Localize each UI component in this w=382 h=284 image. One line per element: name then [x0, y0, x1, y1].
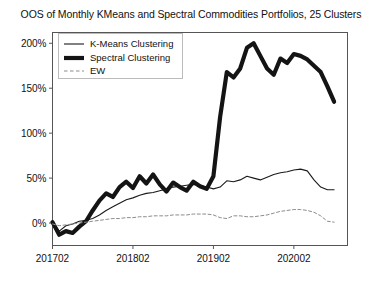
x-axis-labels: 201702201802201902202002	[36, 253, 311, 264]
y-tick-label: 0%	[32, 218, 47, 229]
legend-label-spectral: Spectral Clustering	[90, 52, 170, 63]
y-tick-label: 200%	[21, 38, 47, 49]
x-axis-ticks	[53, 246, 294, 250]
legend-label-ew: EW	[90, 65, 105, 76]
legend-label-kmeans: K-Means Clustering	[90, 38, 173, 49]
y-axis-ticks	[49, 43, 53, 223]
chart-plot-area: K-Means Clustering Spectral Clustering E…	[0, 0, 382, 284]
x-tick-label: 201902	[197, 253, 231, 264]
y-tick-label: 50%	[26, 173, 46, 184]
y-tick-label: 150%	[21, 83, 47, 94]
series-line	[53, 169, 335, 231]
chart-figure: OOS of Monthly KMeans and Spectral Commo…	[0, 0, 382, 284]
chart-legend[interactable]: K-Means Clustering Spectral Clustering E…	[59, 34, 183, 79]
x-tick-label: 201702	[36, 253, 70, 264]
y-axis-labels: 0%50%100%150%200%	[21, 38, 47, 229]
y-tick-label: 100%	[21, 128, 47, 139]
x-tick-label: 202002	[277, 253, 311, 264]
x-tick-label: 201802	[116, 253, 150, 264]
